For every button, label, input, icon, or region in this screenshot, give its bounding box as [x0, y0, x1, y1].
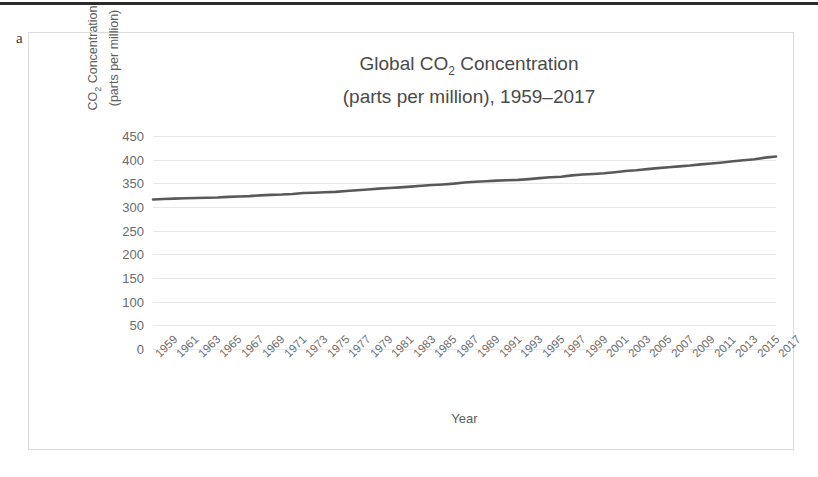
y-axis-tick-label: 150 — [122, 271, 144, 286]
y-axis-tick-label: 250 — [122, 223, 144, 238]
x-axis-tick-labels: 1959196119631965196719691971197319751977… — [153, 351, 776, 411]
y-axis-tick-label: 200 — [122, 247, 144, 262]
y-axis-title-line1: CO2 Concentration — [86, 5, 100, 110]
y-axis-title-line2: (parts per million) — [106, 0, 122, 168]
y-axis-tick-label: 100 — [122, 294, 144, 309]
series-co2-line — [153, 136, 776, 349]
y-axis-tick-label: 0 — [137, 342, 144, 357]
chart-title: Global CO2 Concentration (parts per mill… — [149, 51, 789, 110]
y-axis-tick-label: 50 — [130, 318, 144, 333]
chart-title-line1: Global CO2 Concentration — [149, 51, 789, 84]
chart-title-subscript: 2 — [448, 64, 455, 78]
chart-title-main: Global CO — [360, 53, 449, 74]
y-axis-title-rest: Concentration — [86, 5, 100, 86]
chart-title-main-rest: Concentration — [455, 53, 579, 74]
y-axis-tick-label: 450 — [122, 129, 144, 144]
page-top-rule — [0, 2, 818, 5]
y-axis-tick-label: 300 — [122, 200, 144, 215]
y-axis-title-main: CO — [86, 92, 100, 111]
plot-area: 050100150200250300350400450 — [153, 136, 776, 349]
x-axis-title: Year — [153, 411, 776, 426]
chart-title-line2: (parts per million), 1959–2017 — [149, 84, 789, 110]
y-axis-title-subscript: 2 — [93, 87, 103, 92]
x-axis-tick-label: 2017 — [776, 333, 803, 360]
figure-frame: Global CO2 Concentration (parts per mill… — [28, 32, 794, 450]
y-axis-title: CO2 Concentration (parts per million) — [85, 0, 122, 168]
y-axis-tick-label: 350 — [122, 176, 144, 191]
y-axis-tick-label: 400 — [122, 152, 144, 167]
panel-label: a — [16, 30, 23, 47]
